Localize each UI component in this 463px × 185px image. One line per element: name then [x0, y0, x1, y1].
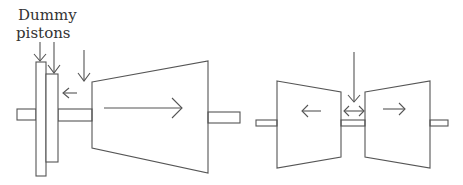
double-arrow-icon [344, 106, 364, 116]
dummy-piston-1 [36, 62, 46, 176]
double-flow-turbine [256, 52, 448, 168]
steam-inlet-arrow-icon [78, 50, 90, 81]
steam-inlet-arrow-icon [348, 52, 360, 102]
left-turbine-half [277, 81, 341, 168]
center-shaft [341, 120, 365, 126]
middle-shaft [58, 109, 92, 121]
left-shaft-stub [17, 109, 36, 120]
arrow-down-icon [34, 42, 46, 61]
flow-arrow-left-icon [302, 105, 321, 117]
flow-arrow-right-icon [104, 98, 182, 118]
turbine-body [92, 61, 208, 173]
arrow-left-icon [63, 88, 77, 98]
turbine-diagram [0, 0, 463, 185]
single-flow-turbine [17, 42, 240, 176]
right-turbine-half [365, 81, 430, 168]
right-shaft-stub [208, 112, 240, 123]
flow-arrow-right-icon [383, 103, 405, 115]
dummy-piston-2 [46, 74, 58, 162]
arrow-down-icon [48, 42, 60, 73]
left-shaft-stub [256, 120, 277, 126]
right-shaft-stub [430, 120, 448, 126]
